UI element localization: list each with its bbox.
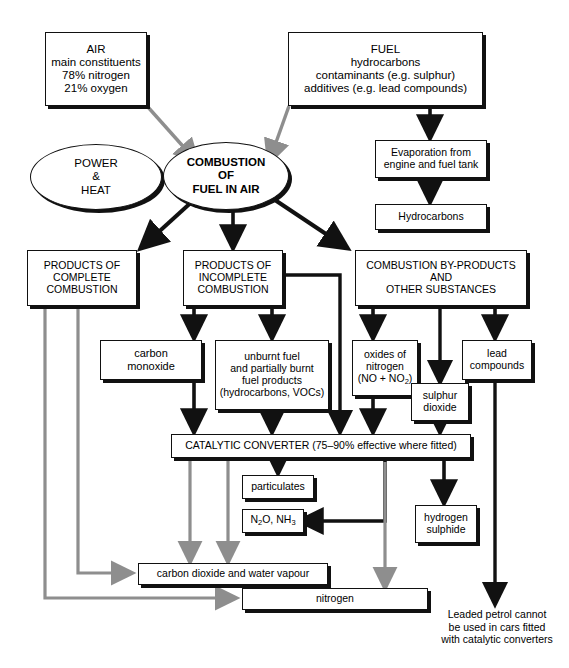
node-unburnt-fuel-text: unburnt fueland partially burntfuel prod…	[217, 351, 327, 399]
node-carbon-dioxide-water-text: carbon dioxide and water vapour	[154, 568, 312, 580]
note-leaded-petrol: Leaded petrol cannotbe used in cars fitt…	[428, 608, 566, 646]
node-hydrocarbons: Hydrocarbons	[375, 204, 487, 230]
node-catalytic-converter: CATALYTIC CONVERTER (75–90% effective wh…	[171, 434, 471, 458]
node-sulphur-dioxide: sulphurdioxide	[411, 383, 469, 421]
node-byproducts-text: COMBUSTION BY-PRODUCTSANDOTHER SUBSTANCE…	[363, 260, 519, 296]
node-byproducts: COMBUSTION BY-PRODUCTSANDOTHER SUBSTANCE…	[355, 250, 527, 306]
node-oxides-nitrogen: oxides ofnitrogen(NO + NO2)	[352, 340, 418, 396]
node-particulates: particulates	[242, 475, 314, 499]
node-lead-compounds-text: leadcompounds	[467, 348, 527, 372]
node-products-complete: PRODUCTS OFCOMPLETECOMBUSTION	[27, 250, 137, 306]
node-oxides-nitrogen-text: oxides ofnitrogen(NO + NO2)	[355, 349, 416, 386]
flowchart-canvas: AIRmain constituents78% nitrogen21% oxyg…	[0, 0, 569, 668]
node-catalytic-converter-text: CATALYTIC CONVERTER (75–90% effective wh…	[182, 440, 460, 452]
edge-combustion-to-products-complete	[141, 198, 196, 248]
node-hydrogen-sulphide-text: hydrogensulphide	[421, 512, 471, 536]
node-carbon-dioxide-water: carbon dioxide and water vapour	[138, 563, 328, 585]
node-combustion-text: COMBUSTIONOFFUEL IN AIR	[184, 156, 269, 195]
node-power-heat-text: POWER&HEAT	[71, 157, 120, 196]
node-nitrogen-text: nitrogen	[313, 593, 357, 605]
node-combustion: COMBUSTIONOFFUEL IN AIR	[163, 142, 289, 210]
node-hydrogen-sulphide: hydrogensulphide	[415, 505, 477, 543]
node-nitrogen: nitrogen	[242, 588, 428, 610]
node-air: AIRmain constituents78% nitrogen21% oxyg…	[45, 32, 147, 106]
node-particulates-text: particulates	[248, 481, 308, 493]
note-leaded-petrol-text: Leaded petrol cannotbe used in cars fitt…	[441, 608, 552, 645]
node-products-complete-text: PRODUCTS OFCOMPLETECOMBUSTION	[41, 260, 123, 296]
edge-combustion-to-byproducts	[272, 198, 347, 248]
node-products-incomplete: PRODUCTS OFINCOMPLETECOMBUSTION	[183, 250, 283, 306]
node-sulphur-dioxide-text: sulphurdioxide	[420, 390, 460, 414]
node-evaporation: Evaporation fromengine and fuel tank	[375, 140, 487, 178]
node-unburnt-fuel: unburnt fueland partially burntfuel prod…	[215, 340, 329, 410]
node-hydrocarbons-text: Hydrocarbons	[395, 211, 466, 223]
node-n2o-nh3: N2O, NH3	[242, 509, 304, 533]
node-power-heat: POWER&HEAT	[30, 144, 162, 210]
node-air-text: AIRmain constituents78% nitrogen21% oxyg…	[48, 43, 144, 95]
node-fuel: FUELhydrocarbonscontaminants (e.g. sulph…	[288, 32, 483, 106]
node-carbon-monoxide-text: carbonmonoxide	[124, 347, 178, 372]
node-evaporation-text: Evaporation fromengine and fuel tank	[381, 147, 482, 171]
node-products-incomplete-text: PRODUCTS OFINCOMPLETECOMBUSTION	[192, 260, 274, 296]
node-carbon-monoxide: carbonmonoxide	[100, 340, 202, 380]
node-lead-compounds: leadcompounds	[462, 340, 532, 380]
node-n2o-nh3-text: N2O, NH3	[247, 514, 298, 527]
node-fuel-text: FUELhydrocarbonscontaminants (e.g. sulph…	[301, 43, 470, 95]
